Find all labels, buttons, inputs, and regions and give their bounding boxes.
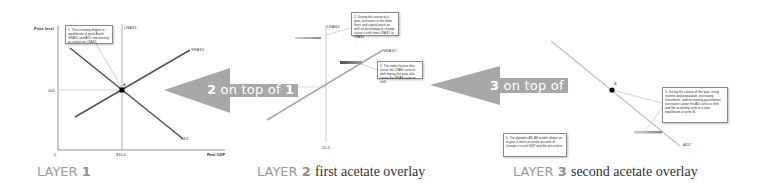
- x-axis-label: Real GDP: [207, 152, 225, 157]
- point-b-marker: [609, 87, 614, 92]
- y-axis-label: Price level: [34, 26, 54, 31]
- note-5: 5. The dynamic AD-AS model allows us to …: [503, 133, 567, 157]
- point-b-label: B: [614, 81, 617, 86]
- ad2-line: [551, 41, 680, 146]
- sras2-label: SRAS2: [383, 48, 396, 53]
- gdp-tick: $10.0: [116, 152, 126, 157]
- layer1-caption: LAYER 1: [37, 164, 91, 179]
- point-a-marker: [120, 88, 125, 93]
- sras1-line: [75, 50, 190, 117]
- arrow-2-text: 3 on top of 2: [490, 78, 577, 93]
- layer3-chart: [551, 41, 680, 146]
- note-2: 2. During the course of a year, increase…: [351, 12, 399, 36]
- note-4: 4. During the course of the year, rising…: [662, 87, 728, 123]
- sras-shift-arrow: [340, 61, 362, 64]
- ad2-label: AD2: [683, 142, 691, 147]
- price-tick: 100: [48, 88, 55, 93]
- lras-shift-arrow: [295, 37, 321, 39]
- note-1: 1. The economy begins in equilibrium at …: [65, 25, 113, 44]
- ad1-label: AD1: [181, 136, 189, 141]
- gdp-tick-2: 10.3: [322, 145, 330, 150]
- layer3-caption: LAYER 3 second acetate overlay: [513, 164, 698, 180]
- note1-leader: [95, 42, 122, 88]
- arrow-1-text: 2 on top of 1: [207, 82, 294, 97]
- ad-shift-arrow: [634, 131, 662, 134]
- point-a-label: A: [123, 82, 126, 87]
- note-3: 3. The same factors that cause the LRAS …: [377, 61, 423, 79]
- origin-label: 0: [54, 152, 56, 157]
- sras1-label: SRAS1: [191, 47, 204, 52]
- lras2-label: LRAS2: [327, 24, 340, 29]
- ad1-line: [70, 48, 182, 138]
- layer2-caption: LAYER 2 first acetate overlay: [257, 164, 425, 180]
- lras1-label: LRAS1: [124, 25, 137, 30]
